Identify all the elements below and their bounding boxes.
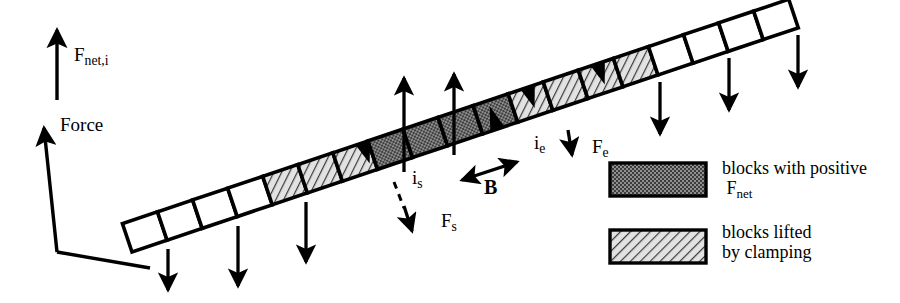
legend-entry-hatched-text: blocks lifted by clamping: [722, 222, 811, 262]
fs-arrow: [404, 206, 412, 231]
legend-line-2-sub: net: [737, 186, 753, 201]
block-group-hatched-right: [508, 47, 658, 123]
end-index-sub: e: [539, 141, 545, 156]
fs-indicator: [394, 182, 412, 231]
start-force-sub: s: [452, 219, 457, 234]
force-axis-label: Force: [60, 114, 103, 136]
fe-indicator: [568, 130, 572, 155]
block-group-dotted: [368, 94, 518, 170]
end-force-main: F: [592, 136, 603, 157]
force-axis-vertical: [44, 128, 57, 252]
end-force-sub: e: [603, 145, 609, 160]
start-force-label: Fs: [441, 210, 457, 235]
end-index-label: ie: [534, 132, 545, 157]
legend-swatches: [610, 163, 706, 263]
legend-swatch-hatched: [610, 230, 706, 263]
block-group-white-left: [122, 176, 272, 252]
end-force-label: Fe: [592, 136, 609, 161]
width-label-b: B: [484, 176, 497, 199]
block: [754, 0, 799, 40]
block-strip: [122, 0, 798, 252]
legend-line-1: blocks lifted: [722, 222, 811, 242]
diagram-canvas: Fnet,i Force is ie Fs Fe B blocks with p…: [0, 0, 900, 303]
legend-swatch-dotted: [610, 163, 706, 196]
fs-dashed-leader: [394, 182, 404, 208]
legend-line-2: Fnet: [722, 178, 867, 204]
fe-arrow: [568, 130, 572, 155]
unit-force-label: Fnet,i: [74, 44, 109, 69]
unit-force-label-sub: net,i: [85, 53, 109, 68]
legend-entry-dotted-text: blocks with positive Fnet: [722, 158, 867, 204]
start-index-sub: s: [417, 176, 422, 191]
legend-line-2-main: F: [727, 178, 737, 198]
force-axis-baseline: [57, 252, 150, 268]
start-force-main: F: [441, 210, 452, 231]
legend-line-2: by clamping: [722, 242, 811, 262]
unit-force-label-main: F: [74, 44, 85, 65]
legend-line-1: blocks with positive: [722, 158, 867, 178]
start-index-label: is: [412, 167, 423, 192]
block-group-white-right: [648, 0, 798, 75]
